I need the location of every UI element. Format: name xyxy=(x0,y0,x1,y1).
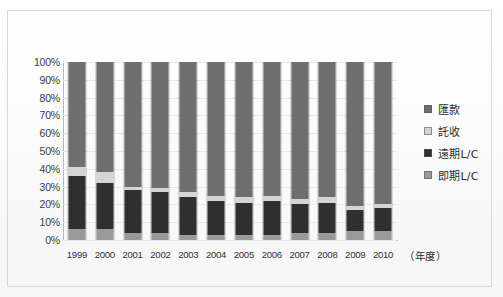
bar-slot-2000 xyxy=(91,62,119,240)
bar-segment-2005-遠期L/C xyxy=(235,203,252,235)
bar-segment-2000-遠期L/C xyxy=(96,183,113,229)
legend-item-1[interactable]: 託收 xyxy=(424,120,498,142)
bar-segment-2008-匯款 xyxy=(319,62,336,197)
bar-segment-2005-即期L/C xyxy=(235,235,252,240)
bar-segment-2000-即期L/C xyxy=(96,229,113,240)
bar-slot-2006 xyxy=(258,62,286,240)
bar-segment-2001-匯款 xyxy=(124,62,141,187)
legend-label-3: 即期L/C xyxy=(438,167,479,183)
x-axis-tick-2008: 2008 xyxy=(313,249,341,265)
stacked-bar-2009[interactable] xyxy=(346,62,365,240)
bar-segment-2000-匯款 xyxy=(96,62,113,172)
bar-segment-2006-即期L/C xyxy=(263,235,280,240)
stacked-bar-2003[interactable] xyxy=(179,62,198,240)
bar-segment-2002-即期L/C xyxy=(152,233,169,240)
stacked-bar-2004[interactable] xyxy=(207,62,226,240)
x-axis-tick-2002: 2002 xyxy=(146,249,174,265)
bar-segment-2009-遠期L/C xyxy=(347,210,364,231)
stacked-bar-2008[interactable] xyxy=(318,62,337,240)
y-axis-tick-100: 100% xyxy=(20,57,60,67)
chart-page: 100%90%80%70%60%50%40%30%20%10%0% 199920… xyxy=(0,0,503,297)
bar-slot-2001 xyxy=(119,62,147,240)
y-axis-tick-50: 50% xyxy=(20,146,60,156)
bar-segment-2001-遠期L/C xyxy=(124,190,141,233)
bar-segment-2003-遠期L/C xyxy=(180,197,197,234)
gridline-0 xyxy=(63,240,397,241)
bar-slot-2007 xyxy=(286,62,314,240)
bar-segment-2009-即期L/C xyxy=(347,231,364,240)
bar-slot-2003 xyxy=(174,62,202,240)
legend-item-2[interactable]: 遠期L/C xyxy=(424,142,498,164)
bar-segment-1999-即期L/C xyxy=(68,229,85,240)
bar-slot-2002 xyxy=(146,62,174,240)
legend-swatch-remittance xyxy=(424,105,432,113)
legend-item-3[interactable]: 即期L/C xyxy=(424,164,498,186)
x-axis-tick-2000: 2000 xyxy=(91,249,119,265)
y-axis-tick-70: 70% xyxy=(20,110,60,120)
bar-segment-2005-匯款 xyxy=(235,62,252,197)
plot-area xyxy=(63,62,397,240)
bar-segment-2004-匯款 xyxy=(208,62,225,196)
bar-slot-2008 xyxy=(313,62,341,240)
bar-slot-2009 xyxy=(341,62,369,240)
legend-swatch-sight-lc xyxy=(424,171,432,179)
y-axis-tick-90: 90% xyxy=(20,75,60,85)
y-axis-tick-30: 30% xyxy=(20,182,60,192)
bar-segment-2007-匯款 xyxy=(291,62,308,199)
bar-slot-1999 xyxy=(63,62,91,240)
stacked-bar-2002[interactable] xyxy=(151,62,170,240)
bar-segment-2003-匯款 xyxy=(180,62,197,192)
legend-label-2: 遠期L/C xyxy=(438,145,479,161)
bar-slot-2005 xyxy=(230,62,258,240)
x-axis-tick-labels: 1999200020012002200320042005200620072008… xyxy=(63,249,397,265)
x-axis-title: （年度） xyxy=(404,248,446,263)
bar-segment-2006-匯款 xyxy=(263,62,280,196)
legend-swatch-usance-lc xyxy=(424,149,432,157)
bar-segment-2010-匯款 xyxy=(375,62,392,204)
x-axis-tick-2009: 2009 xyxy=(341,249,369,265)
bar-segment-2010-即期L/C xyxy=(375,231,392,240)
bar-segment-2004-即期L/C xyxy=(208,235,225,240)
bar-segment-2009-匯款 xyxy=(347,62,364,206)
x-axis-tick-1999: 1999 xyxy=(63,249,91,265)
stacked-bar-2001[interactable] xyxy=(123,62,142,240)
bar-series-group xyxy=(63,62,397,240)
bar-segment-1999-託收 xyxy=(68,167,85,176)
bar-segment-2004-遠期L/C xyxy=(208,201,225,235)
bar-segment-1999-匯款 xyxy=(68,62,85,167)
legend-label-0: 匯款 xyxy=(438,101,460,117)
stacked-bar-2005[interactable] xyxy=(234,62,253,240)
stacked-bar-2006[interactable] xyxy=(262,62,281,240)
y-axis-tick-80: 80% xyxy=(20,93,60,103)
x-axis-tick-2004: 2004 xyxy=(202,249,230,265)
legend-item-0[interactable]: 匯款 xyxy=(424,98,498,120)
stacked-bar-1999[interactable] xyxy=(67,62,86,240)
bar-segment-2003-即期L/C xyxy=(180,235,197,240)
y-axis-tick-0: 0% xyxy=(20,235,60,245)
x-axis-tick-2010: 2010 xyxy=(369,249,397,265)
x-axis-tick-2003: 2003 xyxy=(174,249,202,265)
y-axis-tick-40: 40% xyxy=(20,164,60,174)
x-axis-tick-2001: 2001 xyxy=(119,249,147,265)
x-axis-tick-2005: 2005 xyxy=(230,249,258,265)
bar-segment-2001-即期L/C xyxy=(124,233,141,240)
chart-legend: 匯款託收遠期L/C即期L/C xyxy=(424,98,498,186)
stacked-bar-2000[interactable] xyxy=(95,62,114,240)
bar-segment-2006-遠期L/C xyxy=(263,201,280,235)
legend-label-1: 託收 xyxy=(438,123,460,139)
legend-swatch-collection xyxy=(424,127,432,135)
y-axis-tick-20: 20% xyxy=(20,199,60,209)
y-axis-tick-60: 60% xyxy=(20,128,60,138)
bar-segment-1999-遠期L/C xyxy=(68,176,85,229)
stacked-bar-2010[interactable] xyxy=(374,62,393,240)
bar-segment-2007-即期L/C xyxy=(291,233,308,240)
bar-segment-2008-遠期L/C xyxy=(319,203,336,233)
bar-segment-2010-遠期L/C xyxy=(375,208,392,231)
x-axis-tick-2007: 2007 xyxy=(286,249,314,265)
bar-segment-2007-遠期L/C xyxy=(291,204,308,232)
y-axis-tick-10: 10% xyxy=(20,217,60,227)
bar-slot-2010 xyxy=(369,62,397,240)
y-axis-tick-labels: 100%90%80%70%60%50%40%30%20%10%0% xyxy=(16,0,60,297)
stacked-bar-2007[interactable] xyxy=(290,62,309,240)
x-axis-tick-2006: 2006 xyxy=(258,249,286,265)
